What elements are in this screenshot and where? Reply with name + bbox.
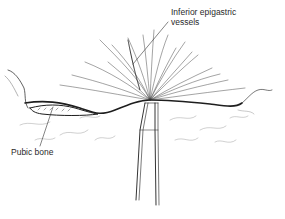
epigastric-vessel: [128, 40, 140, 90]
anatomy-drawing: [0, 0, 285, 219]
instrument-shaft-left: [136, 103, 145, 200]
label-vessels-line1: Inferior epigastric: [171, 7, 236, 17]
vessels-leader-line: [133, 22, 168, 64]
label-vessels-line2: vessels: [171, 17, 236, 27]
fascia-line: [25, 100, 242, 113]
label-inferior-epigastric-vessels: Inferior epigastric vessels: [171, 7, 236, 27]
pubic-bone-leader-line: [40, 107, 53, 146]
instrument-shaft-right: [155, 103, 156, 205]
illustration-canvas: Inferior epigastric vessels Pubic bone: [0, 0, 285, 219]
label-pubic-bone: Pubic bone: [11, 147, 54, 157]
